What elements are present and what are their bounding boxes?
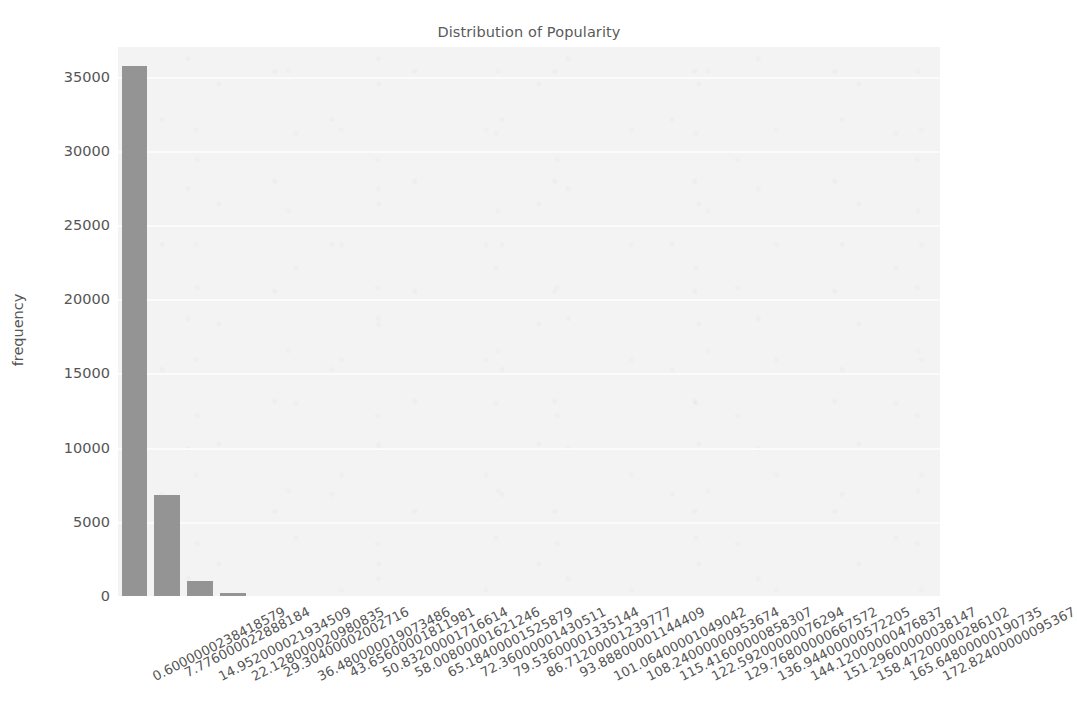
y-tick-label: 35000 bbox=[10, 69, 110, 85]
chart-title: Distribution of Popularity bbox=[118, 24, 940, 40]
histogram-bar bbox=[122, 66, 148, 596]
paper-texture bbox=[118, 47, 940, 596]
gridline bbox=[118, 522, 940, 524]
gridline bbox=[118, 225, 940, 227]
gridline bbox=[118, 373, 940, 375]
histogram-bar bbox=[187, 581, 213, 596]
y-tick-label: 25000 bbox=[10, 217, 110, 233]
y-tick-label: 30000 bbox=[10, 143, 110, 159]
gridline bbox=[118, 299, 940, 301]
y-tick-label: 10000 bbox=[10, 440, 110, 456]
histogram-bar bbox=[154, 495, 180, 596]
gridline bbox=[118, 77, 940, 79]
gridline bbox=[118, 151, 940, 153]
x-axis-ticks: 0.60000002384185797.77600002288818414.95… bbox=[0, 596, 1060, 719]
plot-area bbox=[118, 47, 940, 596]
gridline bbox=[118, 448, 940, 450]
y-tick-label: 20000 bbox=[10, 291, 110, 307]
y-tick-label: 15000 bbox=[10, 365, 110, 381]
y-tick-label: 5000 bbox=[10, 514, 110, 530]
